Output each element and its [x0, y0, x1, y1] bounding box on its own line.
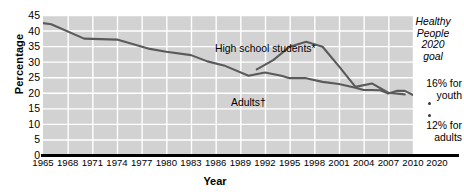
- goal-adults-line-2: adults: [396, 132, 462, 144]
- goal-youth-line-1: 16% for: [396, 78, 462, 90]
- goal-adults-line-1: 12% for: [396, 120, 462, 132]
- goal-title-line-3: 2020: [404, 39, 462, 51]
- horizontal-gridlines: [43, 16, 413, 140]
- series-label-high-school-students: High school students*: [215, 43, 316, 54]
- goal-marker-dot-upper: [428, 102, 431, 105]
- goal-title-line-4: goal: [404, 51, 462, 63]
- healthy-people-2020-goal-title: Healthy People 2020 goal: [404, 16, 462, 62]
- goal-youth-line-2: youth: [396, 90, 462, 102]
- y-tick-label: 40: [18, 26, 40, 36]
- y-tick-label: 45: [18, 10, 40, 20]
- goal-title-line-1: Healthy: [404, 16, 462, 28]
- x-axis-title: Year: [0, 175, 430, 187]
- y-tick-label: 25: [18, 72, 40, 82]
- y-tick-label: 5: [18, 134, 40, 144]
- y-tick-label: 20: [18, 88, 40, 98]
- x-tick-label-goal-year: 2020: [423, 157, 451, 168]
- y-tick-label: 35: [18, 41, 40, 51]
- series-label-adults: Adults†: [231, 97, 266, 108]
- plot-area: High school students* Adults†: [43, 15, 413, 155]
- goal-youth-target: 16% for youth: [396, 78, 462, 101]
- y-tick-label: 15: [18, 103, 40, 113]
- y-tick-label: 10: [18, 119, 40, 129]
- y-tick-label: 30: [18, 57, 40, 67]
- goal-adults-target: 12% for adults: [396, 120, 462, 143]
- goal-marker-dot-lower: [428, 114, 431, 117]
- x-axis-tick-labels: 1965196819711974197719801983198619891992…: [0, 157, 464, 171]
- plot-canvas: [43, 15, 413, 155]
- smoking-prevalence-line-chart: Percentage 454035302520151050 High schoo…: [0, 0, 464, 194]
- series-line-adults: [43, 23, 413, 95]
- goal-title-line-2: People: [404, 28, 462, 40]
